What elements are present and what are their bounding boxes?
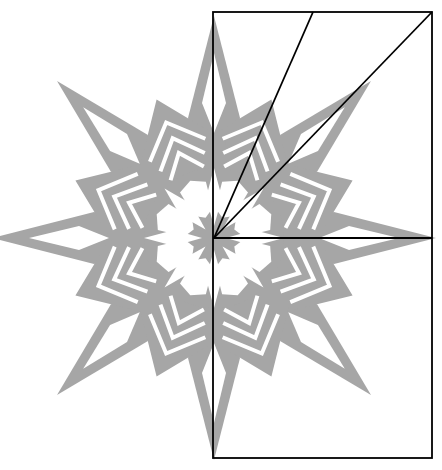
snowflake-diagram xyxy=(0,0,442,470)
